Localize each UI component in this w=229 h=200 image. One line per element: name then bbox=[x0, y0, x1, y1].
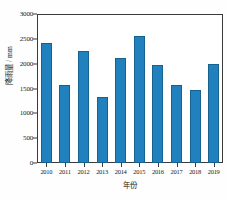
bar-slot bbox=[37, 14, 56, 163]
bar-slot bbox=[56, 14, 75, 163]
y-tick-label: 500 bbox=[0, 134, 33, 142]
rainfall-bar-chart: 050010001500200025003000 201020112012201… bbox=[0, 0, 229, 200]
bar-slot bbox=[204, 14, 223, 163]
bar-2011 bbox=[59, 85, 70, 163]
bar-slot bbox=[149, 14, 168, 163]
bar-2012 bbox=[78, 51, 89, 163]
x-tick-mark bbox=[177, 163, 178, 167]
bar-2010 bbox=[41, 43, 52, 163]
bar-slot bbox=[111, 14, 130, 163]
x-tick-mark bbox=[195, 163, 196, 167]
x-tick-mark bbox=[84, 163, 85, 167]
x-tick-labels: 2010201120122013201420152016201720182019 bbox=[37, 168, 223, 175]
y-tick-label: 3000 bbox=[0, 10, 33, 18]
x-tick-label: 2019 bbox=[204, 168, 223, 175]
bar-slot bbox=[93, 14, 112, 163]
bar-2013 bbox=[97, 97, 108, 163]
x-tick-mark bbox=[102, 163, 103, 167]
x-tick-label: 2015 bbox=[130, 168, 149, 175]
y-axis-title: 降雨量 / mm bbox=[3, 26, 14, 106]
bar-slot bbox=[186, 14, 205, 163]
x-tick-label: 2018 bbox=[186, 168, 205, 175]
x-axis-title: 年份 bbox=[37, 179, 223, 190]
x-tick-mark bbox=[214, 163, 215, 167]
bar-2017 bbox=[171, 85, 182, 163]
bar-2019 bbox=[208, 64, 219, 163]
bar-2018 bbox=[190, 90, 201, 163]
y-tick-label: 1000 bbox=[0, 109, 33, 117]
x-tick-mark bbox=[46, 163, 47, 167]
x-tick-mark bbox=[139, 163, 140, 167]
bar-2016 bbox=[152, 65, 163, 163]
x-tick-mark bbox=[65, 163, 66, 167]
x-tick-label: 2016 bbox=[149, 168, 168, 175]
x-tick-mark bbox=[121, 163, 122, 167]
bar-2015 bbox=[134, 36, 145, 163]
bar-2014 bbox=[115, 58, 126, 163]
x-tick-label: 2011 bbox=[56, 168, 75, 175]
x-tick-label: 2017 bbox=[167, 168, 186, 175]
bar-slot bbox=[167, 14, 186, 163]
x-tick-label: 2014 bbox=[111, 168, 130, 175]
bars-container bbox=[37, 14, 223, 163]
x-tick-label: 2012 bbox=[74, 168, 93, 175]
bar-slot bbox=[130, 14, 149, 163]
x-tick-label: 2013 bbox=[93, 168, 112, 175]
y-tick-label: 0 bbox=[0, 159, 33, 167]
bar-slot bbox=[74, 14, 93, 163]
x-tick-label: 2010 bbox=[37, 168, 56, 175]
x-tick-mark bbox=[158, 163, 159, 167]
